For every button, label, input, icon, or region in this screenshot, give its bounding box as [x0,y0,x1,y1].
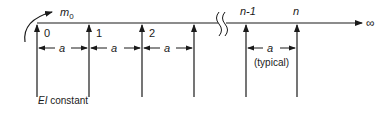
support-label-n-1: n-1 [240,5,256,17]
moment-label: m0 [60,6,74,21]
infinity-label: ∞ [366,16,375,30]
span-label-1: a [111,42,117,54]
support-label-0: 0 [44,27,50,39]
typical-label: (typical) [254,57,289,68]
continuous-beam-diagram: ∞ m0 0 1 2 n-1 n a a a a (typical) EI co… [0,0,385,116]
support-label-1: 1 [96,27,102,39]
break-symbol-icon [217,12,228,36]
span-label-2: a [164,42,170,54]
span-label-0: a [59,42,65,54]
support-label-n: n [293,5,299,17]
stiffness-label: EI constant [38,95,88,106]
span-label-typical: a [267,42,273,54]
support-label-2: 2 [149,27,155,39]
